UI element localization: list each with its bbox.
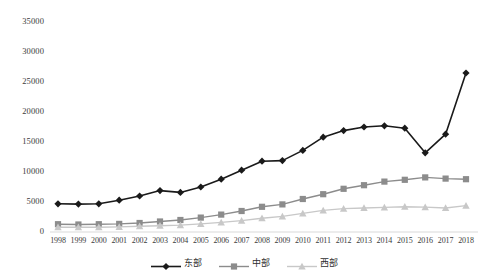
data-point-marker	[231, 263, 237, 269]
data-point-marker	[279, 157, 286, 164]
data-point-marker	[258, 158, 265, 165]
data-point-marker	[95, 200, 102, 207]
data-point-marker	[156, 187, 163, 194]
data-point-marker	[54, 200, 61, 207]
x-axis-tick-label: 2018	[453, 236, 479, 245]
legend-marker-icon	[151, 258, 181, 269]
data-point-marker	[402, 177, 408, 183]
series-1	[54, 69, 469, 207]
data-point-marker	[218, 176, 225, 183]
legend-item-2[interactable]: 中部	[219, 258, 270, 269]
data-point-marker	[381, 179, 387, 185]
y-axis-tick-label: 0	[0, 226, 44, 236]
y-axis-tick-label: 15000	[0, 136, 44, 146]
legend-item-1[interactable]: 东部	[151, 258, 202, 269]
y-axis-tick-label: 35000	[0, 16, 44, 26]
legend-item-label: 中部	[252, 258, 270, 269]
data-point-marker	[238, 167, 245, 174]
data-point-marker	[462, 69, 469, 76]
y-axis-tick-label: 10000	[0, 166, 44, 176]
data-point-marker	[259, 204, 265, 210]
data-point-marker	[463, 176, 469, 182]
data-point-marker	[443, 176, 449, 182]
legend-item-label: 西部	[320, 258, 338, 269]
series-line	[58, 73, 466, 204]
data-point-marker	[75, 201, 82, 208]
legend-item-3[interactable]: 西部	[287, 258, 338, 269]
legend-marker-icon	[287, 258, 317, 269]
data-point-marker	[218, 212, 224, 218]
data-point-marker	[197, 183, 204, 190]
chart-legend: 东部中部西部	[0, 254, 489, 272]
data-point-marker	[381, 122, 388, 129]
data-point-marker	[162, 262, 169, 269]
data-point-marker	[341, 186, 347, 192]
data-point-marker	[177, 189, 184, 196]
data-point-marker	[198, 215, 204, 221]
data-point-marker	[361, 182, 367, 188]
data-point-marker	[422, 174, 428, 180]
y-axis-tick-label: 30000	[0, 46, 44, 56]
y-axis-tick-label: 25000	[0, 76, 44, 86]
data-point-marker	[300, 196, 306, 202]
data-point-marker	[239, 208, 245, 214]
line-chart: 05000100001500020000250003000035000 1998…	[0, 0, 489, 277]
legend-marker-icon	[219, 258, 249, 269]
data-point-marker	[360, 123, 367, 130]
series-layer	[54, 69, 469, 230]
legend-item-label: 东部	[184, 258, 202, 269]
y-axis-tick-label: 20000	[0, 106, 44, 116]
data-point-marker	[340, 127, 347, 134]
data-point-marker	[279, 201, 285, 207]
data-point-marker	[320, 191, 326, 197]
data-point-marker	[136, 192, 143, 199]
data-point-marker	[116, 197, 123, 204]
y-axis-tick-label: 5000	[0, 196, 44, 206]
